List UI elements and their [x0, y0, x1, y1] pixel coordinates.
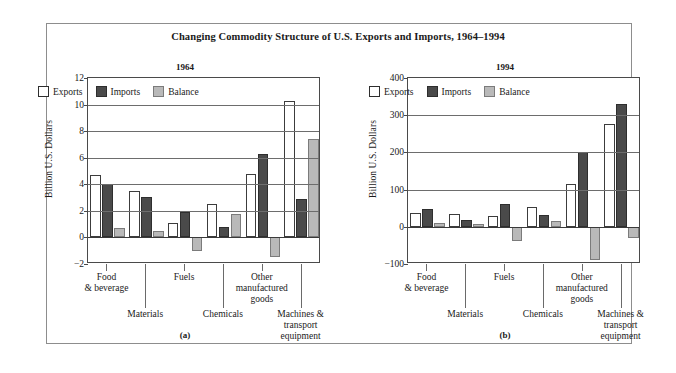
bar-exports [284, 101, 295, 238]
y-axis-tick-label: 200 [390, 147, 404, 157]
y-axis-tick-label: −100 [384, 259, 404, 269]
bar-balance [590, 227, 601, 260]
bar-imports [141, 197, 152, 238]
legend-item-imports[interactable]: Imports [427, 86, 472, 97]
bar-balance [192, 237, 203, 250]
category-tick [184, 264, 185, 271]
bar-imports [258, 154, 269, 238]
bar-exports [488, 216, 499, 226]
category-label: Materials [421, 309, 509, 320]
gridline [88, 105, 319, 106]
y-axis-title-1994: Billion U.S. Dollars [368, 89, 378, 229]
bar-balance [270, 237, 281, 257]
y-axis-tick-mark [404, 152, 408, 153]
bar-balance [114, 228, 125, 237]
bar-imports [219, 227, 230, 238]
legend-swatch-imports-icon [96, 86, 107, 97]
legend-item-exports[interactable]: Exports [38, 86, 83, 97]
category-label: Materials [101, 309, 189, 320]
panel-title-1964: 1964 [25, 62, 345, 72]
legend-swatch-exports-icon [38, 86, 49, 97]
chart-panel-1994: 1994 Billion U.S. Dollars −1000100200300… [345, 52, 665, 344]
bar-imports [616, 104, 627, 227]
category-label: Food & beverage [62, 272, 150, 294]
figure-title: Changing Commodity Structure of U.S. Exp… [0, 31, 676, 42]
legend-label-imports: Imports [442, 87, 472, 97]
y-axis-tick-mark [84, 78, 88, 79]
legend-item-balance[interactable]: Balance [484, 86, 530, 97]
legend-item-exports[interactable]: Exports [369, 86, 414, 97]
y-axis-tick-mark [84, 131, 88, 132]
y-axis-tick-label: −2 [74, 259, 84, 269]
bar-exports [604, 124, 615, 227]
y-axis-tick-mark [404, 227, 408, 228]
y-axis-tick-mark [84, 264, 88, 265]
y-axis-tick-label: 12 [75, 73, 85, 83]
zero-line [88, 237, 319, 238]
legend-label-imports: Imports [111, 87, 141, 97]
y-axis-tick-label: 300 [390, 110, 404, 120]
bar-balance [628, 227, 639, 238]
y-axis-title-1964: Billion U.S. Dollars [44, 89, 54, 229]
category-tick [504, 264, 505, 271]
legend-label-exports: Exports [384, 87, 414, 97]
gridline [88, 211, 319, 212]
category-label: Other manufactured goods [218, 272, 306, 305]
y-axis-tick-label: 100 [390, 185, 404, 195]
panel-letter-a: (a) [25, 330, 345, 340]
gridline [88, 131, 319, 132]
category-label: Chemicals [499, 309, 587, 320]
bar-balance [231, 214, 242, 237]
bar-exports [168, 223, 179, 237]
category-tick [301, 264, 302, 308]
panel-letter-b: (b) [345, 330, 665, 340]
legend-item-imports[interactable]: Imports [96, 86, 141, 97]
legend-item-balance[interactable]: Balance [153, 86, 199, 97]
bar-imports [500, 204, 511, 227]
zero-line [408, 227, 639, 228]
y-axis-tick-mark [84, 237, 88, 238]
bar-series-1994 [408, 78, 639, 262]
bar-imports [180, 212, 191, 238]
category-label: Fuels [460, 272, 548, 283]
y-axis-tick-mark [84, 184, 88, 185]
legend-label-exports: Exports [53, 87, 83, 97]
bar-exports [410, 213, 421, 227]
y-axis-tick-label: 400 [390, 73, 404, 83]
y-axis-tick-label: 10 [75, 100, 85, 110]
category-tick [262, 264, 263, 271]
category-label: Chemicals [179, 309, 267, 320]
legend-swatch-balance-icon [484, 86, 495, 97]
y-axis-tick-mark [404, 190, 408, 191]
category-tick [426, 264, 427, 271]
legend-swatch-exports-icon [369, 86, 380, 97]
bar-series-1964 [88, 78, 319, 262]
bar-exports [207, 204, 218, 237]
gridline [88, 158, 319, 159]
category-label: Fuels [140, 272, 228, 283]
category-tick [106, 264, 107, 271]
category-tick [465, 264, 466, 308]
y-axis-tick-mark [84, 105, 88, 106]
y-axis-tick-mark [84, 211, 88, 212]
bar-imports [296, 199, 307, 238]
bar-balance [153, 231, 164, 238]
plot-area-1964: −2024681012 [87, 77, 320, 263]
legend-label-balance: Balance [168, 87, 199, 97]
bar-exports [527, 207, 538, 226]
bar-balance [512, 227, 523, 241]
bar-exports [449, 214, 460, 227]
bar-exports [129, 191, 140, 238]
gridline [408, 115, 639, 116]
legend-swatch-balance-icon [153, 86, 164, 97]
category-tick [145, 264, 146, 308]
legend-label-balance: Balance [499, 87, 530, 97]
bar-balance [308, 139, 319, 237]
legend-1964: Exports Imports Balance [38, 86, 199, 97]
bar-imports [422, 209, 433, 226]
category-tick [621, 264, 622, 308]
panel-title-1994: 1994 [345, 62, 665, 72]
legend-1994: Exports Imports Balance [369, 86, 530, 97]
y-axis-tick-mark [404, 264, 408, 265]
y-axis-tick-mark [84, 158, 88, 159]
